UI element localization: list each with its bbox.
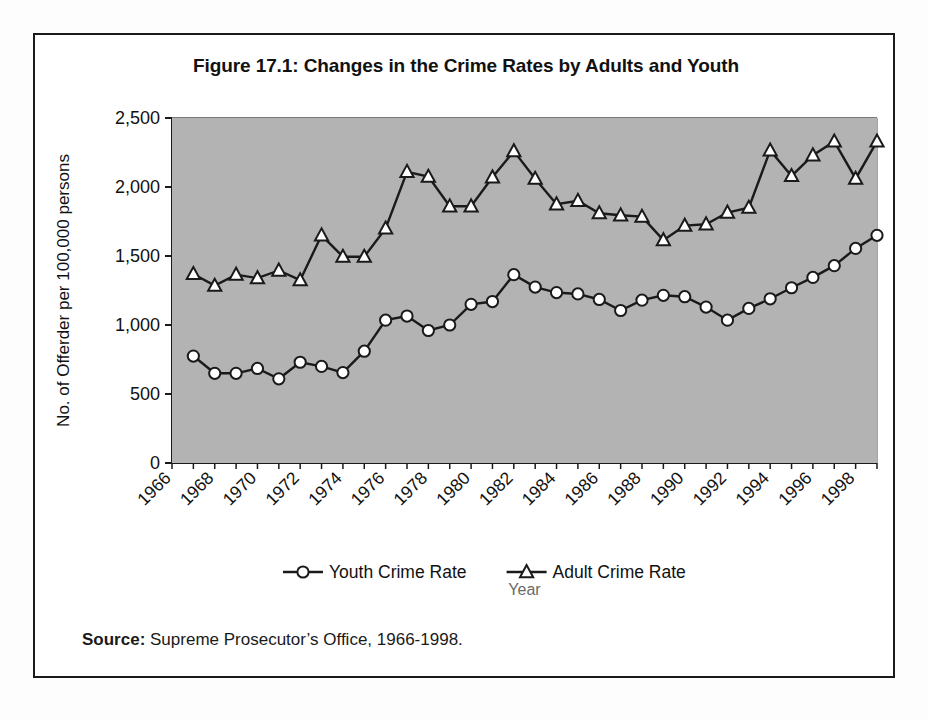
series-marker — [722, 315, 733, 326]
series-marker — [316, 361, 327, 372]
x-tick-label: 1988 — [603, 468, 645, 510]
x-tick-label: 1992 — [689, 468, 731, 510]
y-tick-label: 2,500 — [115, 108, 160, 128]
series-marker — [209, 368, 220, 379]
series-marker — [487, 296, 498, 307]
y-tick-label: 1,500 — [115, 246, 160, 266]
figure-container: Figure 17.1: Changes in the Crime Rates … — [33, 33, 895, 678]
axis-label-group: 05001,0001,5002,0002,500No. of Offerder … — [54, 108, 172, 473]
x-tick-label: 1980 — [432, 468, 474, 510]
series-marker — [700, 301, 711, 312]
x-tick-label: 1996 — [774, 468, 816, 510]
series-marker — [423, 325, 434, 336]
series-marker — [594, 294, 605, 305]
chart-legend: Youth Crime RateAdult Crime Rate — [283, 562, 686, 582]
x-tick-label: 1970 — [219, 468, 261, 510]
series-marker — [465, 299, 476, 310]
tick-group: 1966196819701972197419761978198019821984… — [133, 463, 877, 598]
series-marker — [337, 367, 348, 378]
source-label: Source: — [82, 630, 145, 649]
x-tick-label: 1966 — [133, 468, 175, 510]
x-tick-label: 1968 — [176, 468, 218, 510]
plot-area-fill — [172, 118, 877, 463]
x-tick-label: 1974 — [304, 468, 346, 510]
series-marker — [508, 269, 519, 280]
series-marker — [786, 282, 797, 293]
x-tick-label: 1994 — [731, 468, 773, 510]
series-marker — [765, 293, 776, 304]
series-marker — [807, 272, 818, 283]
series-marker — [551, 287, 562, 298]
x-tick-label: 1990 — [646, 468, 688, 510]
x-tick-label: 1998 — [817, 468, 859, 510]
series-marker — [636, 295, 647, 306]
x-tick-label: 1972 — [261, 468, 303, 510]
series-marker — [615, 305, 626, 316]
y-axis-title: No. of Offerder per 100,000 persons — [54, 154, 73, 427]
series-marker — [401, 310, 412, 321]
legend-marker — [297, 566, 308, 577]
screenshot-root: Figure 17.1: Changes in the Crime Rates … — [0, 0, 928, 721]
series-marker — [829, 260, 840, 271]
line-chart: 05001,0001,5002,0002,500No. of Offerder … — [35, 35, 897, 680]
plot-background — [172, 118, 877, 463]
series-marker — [295, 357, 306, 368]
series-marker — [871, 230, 882, 241]
y-tick-label: 500 — [130, 384, 160, 404]
y-tick-label: 1,000 — [115, 315, 160, 335]
legend-label: Youth Crime Rate — [329, 562, 466, 582]
series-marker — [850, 243, 861, 254]
series-marker — [572, 288, 583, 299]
series-marker — [658, 290, 669, 301]
y-tick-label: 2,000 — [115, 177, 160, 197]
x-tick-label: 1976 — [347, 468, 389, 510]
series-marker — [188, 350, 199, 361]
series-marker — [380, 315, 391, 326]
legend-label: Adult Crime Rate — [553, 562, 686, 582]
series-marker — [252, 363, 263, 374]
x-tick-label: 1978 — [390, 468, 432, 510]
x-tick-label: 1982 — [475, 468, 517, 510]
series-marker — [530, 281, 541, 292]
x-tick-label: 1984 — [518, 468, 560, 510]
x-axis-title: Year — [508, 581, 541, 598]
x-tick-label: 1986 — [560, 468, 602, 510]
series-marker — [743, 303, 754, 314]
source-text: Supreme Prosecutor’s Office, 1966-1998. — [150, 630, 463, 649]
source-note: Source: Supreme Prosecutor’s Office, 196… — [82, 630, 463, 650]
series-marker — [359, 346, 370, 357]
series-marker — [273, 373, 284, 384]
series-marker — [444, 319, 455, 330]
series-marker — [230, 368, 241, 379]
series-marker — [679, 291, 690, 302]
